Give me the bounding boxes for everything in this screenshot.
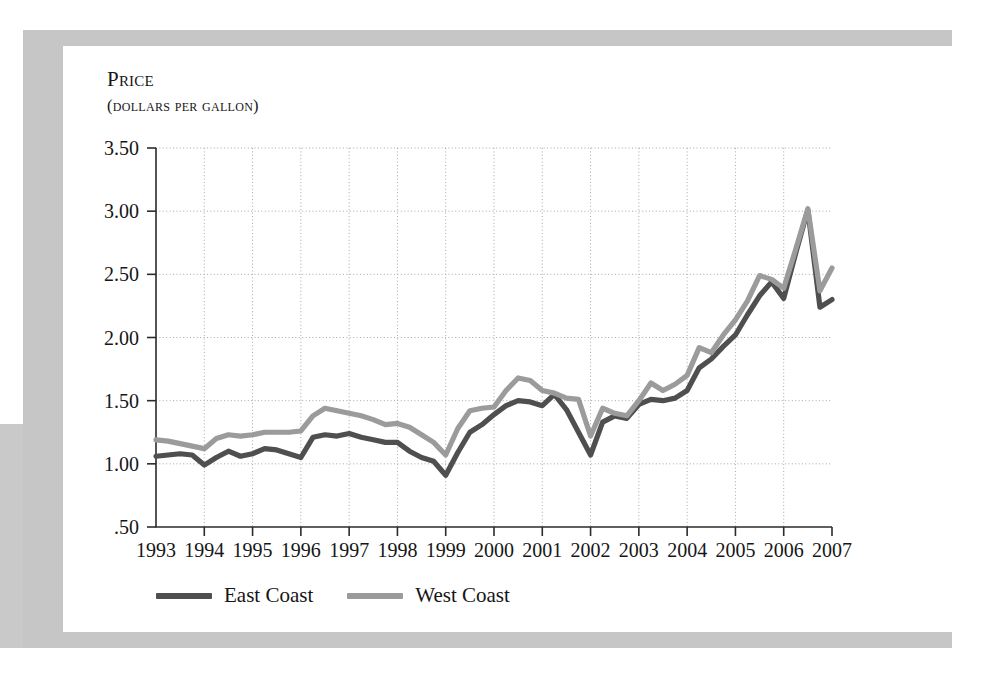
y-axis-title-units: (dollars per gallon) [107,95,259,117]
chart-legend: East Coast West Coast [156,583,510,608]
figure-frame [23,30,952,648]
line-swatch-icon-east-coast [156,593,212,599]
legend-item-west-coast: West Coast [347,583,510,608]
legend-label-west-coast: West Coast [415,583,510,608]
legend-item-east-coast: East Coast [156,583,313,608]
figure-canvas [63,46,959,632]
line-swatch-icon-west-coast [347,593,403,599]
y-axis-title-primary: Price [107,67,259,92]
y-axis-title: Price (dollars per gallon) [107,67,259,117]
page-root: Price (dollars per gallon) .501.001.502.… [0,0,986,681]
legend-label-east-coast: East Coast [224,583,313,608]
